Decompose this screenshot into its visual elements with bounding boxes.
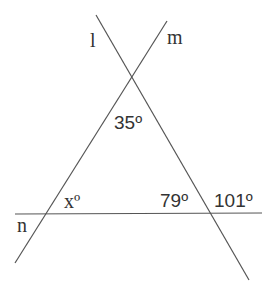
angle-label-x: xº (64, 190, 80, 212)
label-line-n: n (17, 214, 27, 236)
label-line-l: l (90, 29, 96, 51)
angle-label-79: 79º (160, 190, 188, 211)
line-l (96, 15, 249, 280)
line-m (15, 21, 167, 263)
geometry-diagram: l m n 35º xº 79º 101º (0, 0, 274, 293)
label-line-m: m (167, 26, 183, 48)
angle-label-35: 35º (114, 112, 142, 133)
line-n (15, 213, 262, 214)
diagram-canvas: l m n 35º xº 79º 101º (0, 0, 274, 293)
angle-label-101: 101º (214, 190, 253, 211)
